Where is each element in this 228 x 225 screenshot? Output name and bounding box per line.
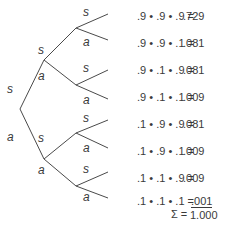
- level1-upper-label-s: s: [38, 44, 44, 56]
- prob-result-7: .009: [183, 172, 204, 184]
- leaf-label-a-4: a: [83, 191, 90, 203]
- root-branch-label-a: a: [7, 131, 14, 143]
- prob-result-6: .009: [183, 145, 204, 157]
- sum-label: Σ =: [171, 208, 187, 220]
- sum-value: 1.000: [190, 209, 218, 221]
- leaf-label-s-3: s: [83, 112, 89, 124]
- leaf-label-a-2: a: [83, 94, 90, 106]
- prob-row-8: .1 • .1 • .1 =: [126, 195, 194, 207]
- root-branch-label-s: s: [7, 83, 13, 95]
- leaf-label-s-2: s: [83, 62, 89, 74]
- leaf-label-s-1: s: [83, 6, 89, 18]
- level1-upper-label-a: a: [38, 70, 45, 82]
- leaf-label-a-1: a: [83, 36, 90, 48]
- prob-result-4: .009: [183, 91, 204, 103]
- probability-tree-lines: [0, 0, 228, 225]
- prob-result-3: .081: [183, 64, 204, 76]
- level1-lower-label-s: s: [38, 132, 44, 144]
- leaf-label-a-3: a: [83, 142, 90, 154]
- level1-lower-label-a: a: [38, 164, 45, 176]
- prob-result-2: .081: [183, 37, 204, 49]
- leaf-label-s-4: s: [83, 163, 89, 175]
- prob-result-8: .001: [191, 195, 212, 208]
- prob-expression: .1 • .1 • .1 =: [126, 195, 194, 207]
- prob-result-1: .729: [183, 10, 204, 22]
- prob-result-5: .081: [183, 118, 204, 130]
